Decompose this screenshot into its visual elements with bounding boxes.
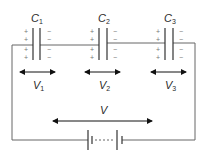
svg-text:+: + [156, 46, 160, 53]
svg-text:+: + [90, 28, 94, 35]
capacitor-label-c2: C2 [98, 12, 110, 25]
svg-text:−: − [179, 54, 183, 61]
series-capacitor-circuit: + + + + − − − − C1 + + + + − − − − C2 + … [0, 0, 207, 154]
voltage-label-v1: V1 [33, 79, 44, 92]
svg-text:+: + [90, 54, 94, 61]
svg-text:+: + [156, 54, 160, 61]
svg-text:−: − [179, 28, 183, 35]
svg-text:+: + [156, 28, 160, 35]
voltage-arrow-v2: V2 [85, 72, 120, 92]
capacitor-label-c1: C1 [31, 12, 43, 25]
total-voltage-label: V [100, 104, 109, 116]
svg-text:−: − [113, 36, 117, 43]
svg-text:−: − [47, 54, 51, 61]
voltage-label-v2: V2 [99, 79, 110, 92]
svg-text:+: + [24, 54, 28, 61]
svg-text:+: + [24, 46, 28, 53]
svg-text:+: + [90, 46, 94, 53]
capacitor-c1: + + + + − − − − C1 [24, 12, 51, 61]
svg-text:−: − [47, 36, 51, 43]
total-voltage-arrow: V [53, 104, 152, 121]
svg-text:+: + [24, 28, 28, 35]
svg-text:−: − [179, 46, 183, 53]
svg-text:−: − [47, 46, 51, 53]
svg-text:−: − [179, 36, 183, 43]
svg-text:+: + [90, 36, 94, 43]
svg-text:−: − [113, 54, 117, 61]
voltage-arrow-v1: V1 [20, 72, 55, 92]
svg-text:+: + [156, 36, 160, 43]
capacitor-c2: + + + + − − − − C2 [90, 12, 117, 61]
svg-text:−: − [47, 28, 51, 35]
capacitor-label-c3: C3 [164, 12, 176, 25]
svg-text:+: + [24, 36, 28, 43]
svg-text:−: − [113, 46, 117, 53]
capacitor-c3: + + + + − − − − C3 [156, 12, 183, 61]
voltage-arrow-v3: V3 [151, 72, 186, 92]
voltage-label-v3: V3 [165, 79, 176, 92]
svg-text:−: − [113, 28, 117, 35]
battery-icon [88, 130, 122, 150]
